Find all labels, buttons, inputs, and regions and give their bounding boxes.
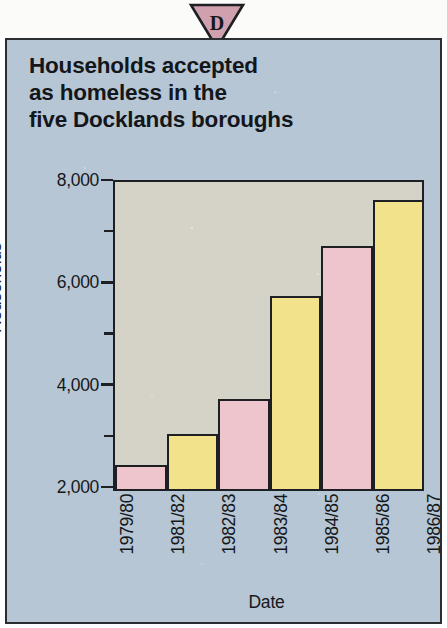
y-axis-tick-major (101, 383, 113, 386)
x-axis-title: Date (113, 592, 420, 613)
x-axis-tick-label: 1985/86 (372, 494, 393, 554)
bar (167, 434, 219, 489)
bar (373, 200, 423, 489)
chart-panel: Households accepted as homeless in the f… (5, 38, 442, 624)
section-marker-letter: D (187, 6, 247, 40)
y-axis-tick-major (101, 486, 113, 489)
x-axis-tick-label: 1986/87 (424, 494, 445, 554)
screenshot-root: D Households accepted as homeless in the… (0, 0, 447, 628)
bar (115, 465, 167, 489)
y-axis-title: Households (0, 243, 6, 333)
y-axis-tick-label: 2,000 (57, 477, 99, 498)
chart-title-line-1: Households accepted (29, 52, 419, 79)
x-axis-tick-label: 1983/84 (270, 494, 291, 554)
chart-title-line-2: as homeless in the (29, 79, 419, 106)
y-axis-tick-label: 8,000 (57, 170, 99, 191)
x-axis-tick-label: 1982/83 (219, 494, 240, 554)
chart-title: Households accepted as homeless in the f… (29, 52, 419, 134)
y-axis-tick-minor (104, 435, 113, 438)
x-axis-tick-label: 1984/85 (321, 494, 342, 554)
chart-title-line-3: five Docklands boroughs (29, 106, 419, 133)
y-axis-tick-label: 6,000 (57, 272, 99, 293)
y-axis-tick-minor (104, 332, 113, 335)
bar (321, 246, 373, 489)
bar (270, 296, 322, 489)
plot-area (113, 180, 424, 491)
bar-series (115, 182, 422, 489)
y-axis-tick-label: 4,000 (57, 374, 99, 395)
x-axis-tick-label: 1981/82 (168, 494, 189, 554)
x-axis-tick-label: 1979/80 (117, 494, 138, 554)
bar (218, 399, 270, 489)
y-axis-tick-major (101, 179, 113, 182)
y-axis-tick-major (101, 281, 113, 284)
y-axis-tick-minor (104, 230, 113, 233)
x-axis: 1979/801981/821982/831983/841984/851985/… (113, 492, 420, 588)
